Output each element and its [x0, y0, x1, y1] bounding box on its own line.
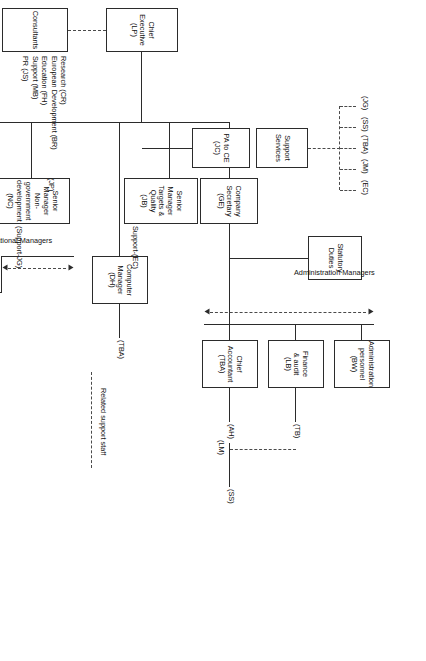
- support-branch-jg: (JG): [361, 96, 370, 110]
- line-pa-to-spine: [142, 148, 192, 149]
- node-pa-to-ce-label: PA to CE(JC): [212, 133, 230, 162]
- line-chief-accountant-staff: [229, 388, 230, 422]
- group-label-operational-managers: Operational Managers: [0, 236, 52, 245]
- staff-lm: (LM): [217, 440, 226, 455]
- admin-managers-group-line: [210, 312, 366, 313]
- admin-group-arrow-top: [369, 309, 374, 315]
- node-consultants[interactable]: Consultants: [2, 8, 68, 52]
- support-branch-ec: (EC): [361, 180, 370, 195]
- node-company-secretary-label: Company Secretary(GE): [216, 180, 243, 222]
- consultant-pr: PR (JS): [21, 56, 30, 176]
- dashed-branch-ss: [340, 127, 356, 128]
- staff-computer-tba: (TBA): [117, 340, 126, 359]
- consultant-european-development: European Development (BR): [49, 56, 58, 176]
- dashed-lm-to-tb: [230, 449, 296, 450]
- node-consultants-label: Consultants: [31, 11, 40, 50]
- dashed-branch-tba: [340, 148, 356, 149]
- node-company-secretary[interactable]: Company Secretary(GE): [200, 178, 258, 224]
- node-chief-accountant-label: ChiefAccountant(TBA): [217, 346, 244, 383]
- consultant-education: Education (FH): [40, 56, 49, 176]
- annotation-support-jg: (Support-JG): [15, 226, 24, 268]
- operational-managers-bus: [2, 256, 74, 257]
- node-finance-audit[interactable]: Finance& audit(LB): [268, 340, 324, 388]
- support-branch-tba: (TBA): [361, 135, 370, 154]
- consultant-support: Support (MB): [30, 56, 39, 176]
- line-statutory-stem: [230, 258, 308, 259]
- staff-ss-admin: (SS): [227, 489, 236, 504]
- node-computer-manager-label: ComputerManager(DH): [107, 264, 134, 296]
- node-administration-personnel[interactable]: Administrationpersonnel(BW): [334, 340, 390, 388]
- tick-lm: [229, 443, 230, 455]
- line-spine-to-computer-manager: [119, 122, 120, 256]
- support-branch-jm: (JM): [361, 159, 370, 174]
- node-sm-targets-quality-label: Senior ManagerTargets & Quality(JB): [139, 180, 183, 222]
- node-chief-executive-label: Chief Executive(LP): [129, 10, 156, 50]
- dashed-ce-to-consultants: [68, 30, 106, 31]
- operational-group-arrow-top: [69, 265, 74, 271]
- line-spine-to-sm-targets: [169, 122, 170, 178]
- staff-chief-accountant-ah: (AH): [227, 424, 236, 439]
- annotation-related-support-staff: Related support staff: [99, 388, 108, 455]
- staff-finance-tb: (TB): [293, 424, 302, 438]
- dashed-branch-ec: [340, 190, 356, 191]
- node-support-services[interactable]: SupportServices: [256, 128, 308, 168]
- line-op-marketing-stem: [0, 292, 2, 293]
- annotation-support-ec: Support-(EC): [131, 226, 140, 269]
- line-lm-to-ss: [229, 455, 230, 487]
- node-chief-accountant[interactable]: ChiefAccountant(TBA): [202, 340, 258, 388]
- node-sm-targets-quality[interactable]: Senior ManagerTargets & Quality(JB): [124, 178, 198, 224]
- node-administration-personnel-label: Administrationpersonnel(BW): [349, 341, 376, 387]
- consultant-research: Research (CR): [59, 56, 68, 176]
- node-sm-non-government[interactable]: Senior ManagerNon-governmentdevelopment(…: [0, 178, 70, 224]
- dashed-related-support-staff: [91, 372, 92, 468]
- node-chief-executive[interactable]: Chief Executive(LP): [106, 8, 178, 52]
- org-chart-frame: Chief Executive(LP) PA to CE(JC) Support…: [0, 0, 426, 661]
- group-label-administration-managers: Administration Managers: [294, 268, 375, 277]
- consultants-list: Research (CR) European Development (BR) …: [21, 56, 68, 176]
- label-jp: (JP): [47, 178, 56, 191]
- dashed-branch-jg: [340, 106, 356, 107]
- line-admin-to-admin-personnel: [361, 324, 362, 340]
- line-computer-manager-staff: [119, 304, 120, 338]
- line-ce-to-spine: [141, 52, 142, 122]
- dashed-support-services-stem: [308, 148, 340, 149]
- admin-group-arrow-bottom: [205, 309, 210, 315]
- line-admin-to-finance: [295, 324, 296, 340]
- org-chart-canvas: Chief Executive(LP) PA to CE(JC) Support…: [0, 0, 426, 661]
- line-finance-staff: [295, 388, 296, 422]
- node-finance-audit-label: Finance& audit(LB): [283, 351, 310, 377]
- line-admin-to-chief-accountant: [229, 324, 230, 340]
- dashed-branch-jm: [340, 169, 356, 170]
- operational-group-arrow-bottom: [3, 265, 8, 271]
- line-op-bus-marketing: [1, 256, 2, 292]
- node-pa-to-ce[interactable]: PA to CE(JC): [192, 128, 250, 168]
- node-support-services-label: SupportServices: [273, 134, 291, 162]
- line-cs-to-admin-bus: [229, 224, 230, 324]
- support-branch-ss: (SS): [361, 117, 370, 132]
